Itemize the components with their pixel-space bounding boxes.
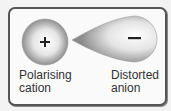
cation-label-line2: cation: [19, 82, 72, 95]
anion-teardrop: [72, 16, 157, 62]
cation-sphere: [22, 19, 68, 65]
anion-label-line2: anion: [111, 82, 159, 95]
cation-label: Polarising cation: [19, 69, 72, 95]
anion-label: Distorted anion: [111, 69, 159, 95]
minus-icon: [128, 37, 141, 39]
